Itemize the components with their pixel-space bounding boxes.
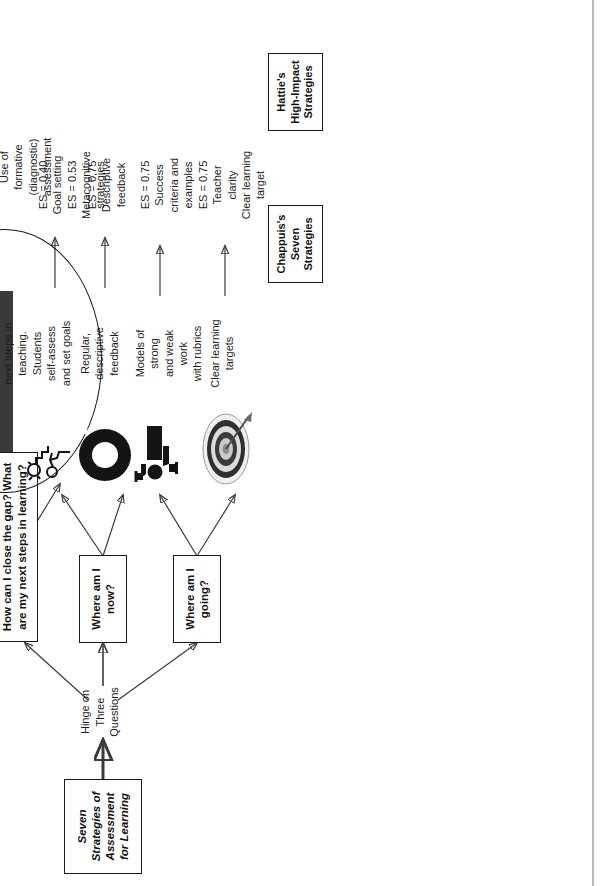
- strategy-chappuis-text: Regular, descriptive feedback: [78, 301, 121, 406]
- hinge-label: Hinge on Three Questions: [78, 683, 122, 741]
- cycle-arrows-icon: [78, 428, 132, 482]
- diagram-page: Seven Strategies of Assessment for Learn…: [0, 0, 604, 886]
- question-box-where-am-i-now: Where am I now?: [79, 555, 127, 643]
- stick-figure-goal-icon: [26, 430, 70, 482]
- strategy-hattie-text: ES = 0.75 Teacher clarity Clear learning…: [196, 130, 267, 240]
- strategy-chappuis-text: Models of strong and weak work with rubr…: [133, 301, 204, 406]
- row-label-hattie: Hattie's High-Impact Strategies: [268, 53, 323, 131]
- strategy-chappuis-text: Students self-assess and set goals: [30, 301, 73, 406]
- row-label-chappuis: Chappuis's Seven Strategies: [268, 205, 323, 283]
- strategy-hattie-text: ES = 0.75 Success criteria and examples: [138, 130, 195, 240]
- strategy-chappuis-text: Use evidence of student learning to dete…: [0, 301, 30, 406]
- microscope-rubric-icon: [133, 424, 179, 486]
- strategy-hattie-text: ES = 0.62 Teaching strategies ES = 0.68 …: [0, 108, 54, 226]
- title-box: Seven Strategies of Assessment for Learn…: [64, 779, 142, 874]
- bullseye-target-icon: [200, 412, 252, 486]
- question-box-where-am-i-going: Where am I going?: [173, 555, 221, 643]
- strategy-chappuis-text: Clear learning targets: [208, 301, 237, 406]
- diagram-canvas: Seven Strategies of Assessment for Learn…: [0, 0, 604, 886]
